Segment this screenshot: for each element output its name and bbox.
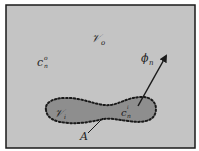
svg-text:i: i (64, 113, 66, 120)
outer-region-background (6, 5, 195, 148)
svg-text:o: o (44, 54, 48, 61)
svg-text:o: o (101, 39, 105, 47)
svg-text:ϕ: ϕ (141, 52, 149, 65)
svg-text:n: n (44, 62, 48, 69)
svg-text:n: n (127, 112, 131, 119)
interface-label: A (79, 130, 88, 143)
outer-concentration-label: c o n (37, 54, 48, 69)
svg-text:n: n (149, 59, 154, 67)
diagram-figure: 𝒱 o c o n ϕ n 𝒱 i c i n A (0, 0, 199, 151)
svg-text:c: c (37, 56, 43, 69)
